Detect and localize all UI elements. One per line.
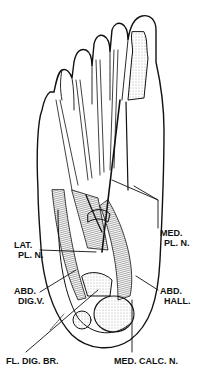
- label-med-pl-n: MED. PL. N.: [160, 228, 190, 248]
- label-line: HALL.: [160, 296, 191, 306]
- label-lat-pl-n: LAT. PL. N.: [14, 240, 44, 260]
- label-line: MED.: [160, 228, 190, 238]
- label-line: ABD.: [14, 286, 44, 296]
- label-med-calc-n: MED. CALC. N.: [114, 356, 178, 366]
- label-fl-dig-br: FL. DIG. BR.: [6, 356, 59, 366]
- label-line: DIG.V.: [14, 296, 44, 306]
- label-abd-hall: ABD. HALL.: [160, 286, 191, 306]
- label-line: LAT.: [14, 240, 44, 250]
- label-abd-dig-v: ABD. DIG.V.: [14, 286, 44, 306]
- label-line: PL. N.: [160, 238, 190, 248]
- label-line: ABD.: [160, 286, 191, 296]
- foot-drawing: [0, 0, 205, 375]
- foot-anatomy-diagram: MED. PL. N. LAT. PL. N. ABD. DIG.V. ABD.…: [0, 0, 205, 375]
- label-line: PL. N.: [14, 250, 44, 260]
